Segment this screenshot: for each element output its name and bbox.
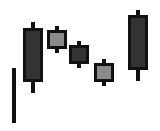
candle-body [49,32,66,48]
candle-body [96,65,113,81]
candle-body [130,17,147,69]
candle-2 [49,26,66,53]
candlestick-chart [0,0,160,131]
candle-4 [96,59,113,86]
vertical-line [12,68,16,123]
candle-body [25,30,42,81]
candle-5 [130,10,147,81]
candle-body [71,47,88,63]
candle-3 [71,41,88,68]
candle-1 [25,22,42,93]
